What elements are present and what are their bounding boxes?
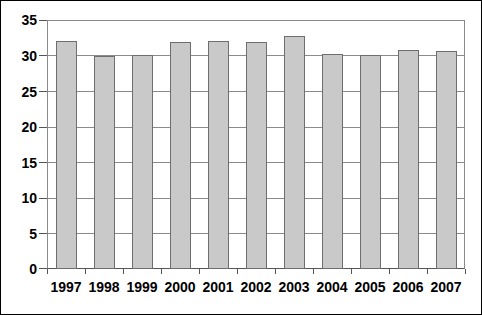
x-axis-label-1998: 1998 [85, 279, 123, 296]
x-axis-label-2004: 2004 [313, 279, 351, 296]
bar-2007 [436, 51, 457, 269]
x-axis-tick-3 [161, 269, 162, 274]
x-axis-label-2002: 2002 [237, 279, 275, 296]
y-axis-label-35: 35 [3, 13, 37, 27]
x-axis-label-2007: 2007 [427, 279, 465, 296]
x-axis-label-2001: 2001 [199, 279, 237, 296]
bars-layer [47, 20, 465, 269]
bar-1999 [132, 55, 153, 269]
y-axis-tick-20 [39, 127, 47, 128]
x-axis-tick-0 [47, 269, 48, 274]
y-axis-label-0: 0 [3, 262, 37, 276]
y-axis-tick-15 [39, 162, 47, 163]
x-axis-label-2006: 2006 [389, 279, 427, 296]
x-axis-label-2005: 2005 [351, 279, 389, 296]
y-axis-label-25: 25 [3, 85, 37, 99]
y-axis-label-15: 15 [3, 156, 37, 170]
x-axis-tick-5 [237, 269, 238, 274]
x-axis-tick-10 [427, 269, 428, 274]
y-axis-label-30: 30 [3, 49, 37, 63]
x-axis-tick-2 [123, 269, 124, 274]
y-axis-tick-5 [39, 233, 47, 234]
y-axis-label-20: 20 [3, 120, 37, 134]
y-axis-tick-0 [39, 268, 47, 269]
x-axis-tick-6 [275, 269, 276, 274]
bar-2000 [170, 42, 191, 269]
x-axis-label-2000: 2000 [161, 279, 199, 296]
x-axis-label-1997: 1997 [47, 279, 85, 296]
x-axis-tick-7 [313, 269, 314, 274]
y-axis-tick-35 [39, 20, 47, 21]
y-axis-tick-30 [39, 55, 47, 56]
y-axis-label-5: 5 [3, 227, 37, 241]
bar-2005 [360, 55, 381, 269]
bar-2002 [246, 42, 267, 269]
bar-2003 [284, 36, 305, 269]
x-axis-tick-8 [351, 269, 352, 274]
y-axis-tick-10 [39, 198, 47, 199]
y-axis: 35 30 25 20 15 10 5 0 [1, 1, 37, 315]
y-axis-label-10: 10 [3, 191, 37, 205]
bar-2006 [398, 50, 419, 269]
bar-1997 [56, 41, 77, 269]
x-axis-labels: 1997199819992000200120022003200420052006… [47, 279, 465, 303]
bar-2001 [208, 41, 229, 269]
x-axis-ticks [47, 269, 465, 275]
x-axis-tick-4 [199, 269, 200, 274]
x-axis-tick-1 [85, 269, 86, 274]
bar-chart-figure: 35 30 25 20 15 10 5 0 199719981999200020… [0, 0, 482, 315]
x-axis-label-2003: 2003 [275, 279, 313, 296]
y-axis-tick-25 [39, 91, 47, 92]
bar-2004 [322, 54, 343, 269]
x-axis-tick-9 [389, 269, 390, 274]
x-axis-label-1999: 1999 [123, 279, 161, 296]
bar-1998 [94, 56, 115, 269]
x-axis-tick-11 [465, 269, 466, 274]
